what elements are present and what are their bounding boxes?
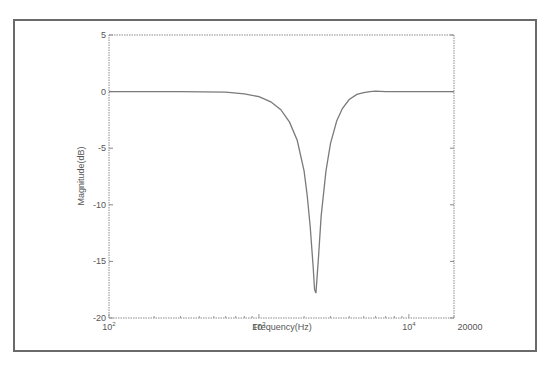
y-tick-label: -15 <box>93 256 106 266</box>
x-tick-label: 20000 <box>457 322 482 332</box>
y-tick-label: 0 <box>101 87 106 97</box>
x-tick-label: 102 <box>102 321 116 332</box>
response-curve <box>109 91 454 293</box>
y-tick-label: -5 <box>98 143 106 153</box>
y-tick-label: -10 <box>93 200 106 210</box>
tick-labels: 50-5-10-15-2010210310420000 <box>93 30 483 332</box>
y-tick-label: 5 <box>101 30 106 40</box>
magnitude-response-chart: 50-5-10-15-2010210310420000 Frequency(Hz… <box>0 0 559 366</box>
plot-axes <box>109 35 454 318</box>
x-axis-title: Frequency(Hz) <box>252 322 312 332</box>
axes-box <box>109 35 454 318</box>
y-axis-title: Magnitude(dB) <box>76 146 86 205</box>
x-tick-label: 104 <box>402 321 416 332</box>
